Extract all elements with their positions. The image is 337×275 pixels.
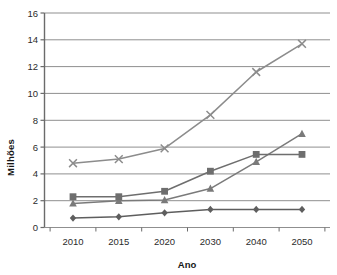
y-tick-label: 2	[33, 195, 38, 206]
x-tick-label: 2015	[108, 236, 129, 247]
y-axis-title-wrapper: Milhões	[0, 0, 22, 275]
data-point-square	[115, 193, 122, 200]
chart-background	[0, 0, 337, 275]
y-tick-label: 10	[27, 88, 38, 99]
x-tick-label: 2030	[200, 236, 221, 247]
data-point-square	[161, 188, 168, 195]
x-tick-label: 2050	[291, 236, 312, 247]
y-tick-label: 8	[33, 115, 38, 126]
data-point-square	[253, 151, 260, 158]
y-tick-label: 14	[27, 34, 38, 45]
y-tick-label: 0	[33, 222, 38, 233]
x-tick-label: 2040	[246, 236, 267, 247]
y-axis-title: Milhões	[5, 99, 18, 176]
data-point-square	[207, 168, 214, 175]
y-tick-label: 12	[27, 61, 38, 72]
line-chart: 0246810121416 201020152020203020402050 A…	[0, 0, 337, 275]
y-tick-label: 4	[33, 168, 38, 179]
y-tick-label: 16	[27, 8, 38, 19]
data-point-square	[299, 151, 306, 158]
chart-container: 0246810121416 201020152020203020402050 A…	[0, 0, 337, 275]
x-tick-label: 2020	[154, 236, 175, 247]
data-point-square	[70, 193, 77, 200]
x-tick-label: 2010	[62, 236, 83, 247]
y-tick-label: 6	[33, 142, 38, 153]
x-axis-title: Ano	[178, 259, 197, 270]
